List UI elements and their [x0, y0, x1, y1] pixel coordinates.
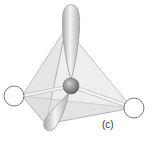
central-atom [63, 78, 79, 94]
figure-label: (c) [102, 119, 114, 130]
molecule-graphic [0, 0, 158, 151]
bonded-atom-right [124, 98, 144, 118]
bonded-atom-left [4, 86, 24, 106]
tetrahedral-diagram: (c) [0, 0, 158, 151]
